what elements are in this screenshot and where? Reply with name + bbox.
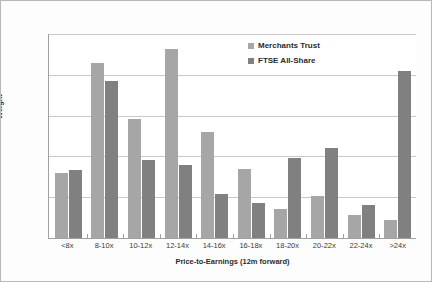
bar bbox=[128, 119, 141, 238]
bar bbox=[142, 160, 155, 238]
legend-item: FTSE All-Share bbox=[248, 56, 320, 65]
x-axis-tick-label: <8x bbox=[49, 241, 86, 250]
bar-group bbox=[87, 34, 124, 238]
x-axis-tick-label: 12-14x bbox=[159, 241, 196, 250]
x-axis-tick-label: >24x bbox=[379, 241, 416, 250]
bar bbox=[69, 170, 82, 238]
legend-swatch-icon bbox=[248, 43, 254, 49]
bar bbox=[55, 173, 68, 238]
bar-group bbox=[123, 34, 160, 238]
bar bbox=[288, 158, 301, 238]
plot-area: 0%5%10%15%20%25% bbox=[48, 34, 416, 239]
bar bbox=[348, 215, 361, 238]
x-axis-tick-label: 10-12x bbox=[122, 241, 159, 250]
x-axis-title: Price-to-Earnings (12m forward) bbox=[49, 257, 416, 266]
x-axis-tick-label: 22-24x bbox=[343, 241, 380, 250]
bar-group bbox=[343, 34, 380, 238]
bar-group bbox=[160, 34, 197, 238]
bar bbox=[201, 132, 214, 238]
bar bbox=[398, 71, 411, 238]
legend-swatch-icon bbox=[248, 58, 254, 64]
bar bbox=[165, 49, 178, 238]
legend-item: Merchants Trust bbox=[248, 41, 320, 50]
bar-group bbox=[50, 34, 87, 238]
x-axis-tick-label: 16-18x bbox=[233, 241, 270, 250]
bar bbox=[362, 205, 375, 238]
bar bbox=[91, 63, 104, 238]
bar bbox=[215, 194, 228, 238]
bar bbox=[105, 81, 118, 238]
legend: Merchants Trust FTSE All-Share bbox=[248, 41, 320, 71]
chart-container: Weight 0%5%10%15%20%25% <8x8-10x10-12x12… bbox=[0, 0, 432, 282]
bar bbox=[252, 203, 265, 238]
legend-label: FTSE All-Share bbox=[258, 56, 316, 65]
x-axis-tick-label: 14-16x bbox=[196, 241, 233, 250]
bar bbox=[325, 148, 338, 238]
x-axis-ticks: <8x8-10x10-12x12-14x14-16x16-18x18-20x20… bbox=[49, 241, 416, 250]
bar bbox=[179, 165, 192, 238]
bar-group bbox=[379, 34, 416, 238]
bar-groups bbox=[50, 34, 416, 238]
x-axis-tick-label: 18-20x bbox=[269, 241, 306, 250]
bar bbox=[384, 220, 397, 238]
x-axis-tick-label: 8-10x bbox=[86, 241, 123, 250]
y-axis-title: Weight bbox=[0, 94, 4, 119]
bar-group bbox=[196, 34, 233, 238]
x-axis-tick-label: 20-22x bbox=[306, 241, 343, 250]
bar bbox=[311, 196, 324, 238]
bar bbox=[238, 169, 251, 238]
bar bbox=[274, 209, 287, 238]
legend-label: Merchants Trust bbox=[258, 41, 320, 50]
